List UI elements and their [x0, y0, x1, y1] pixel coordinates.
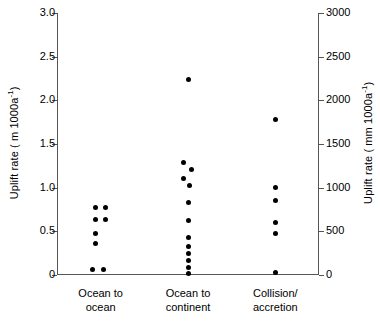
x-axis-category-label: Collision/accretion — [225, 286, 325, 314]
uplift-rate-scatter-figure: Uplift rate ( m 1000a-1) Uplift rate ( m… — [0, 0, 380, 327]
data-point — [101, 267, 106, 272]
x-axis-category-label: Ocean toocean — [51, 286, 151, 314]
y-axis-tick-label-right: 1000 — [326, 181, 372, 193]
data-point — [273, 117, 278, 122]
y-axis-tick-label-left: 3.0 — [11, 6, 55, 18]
category-label-line2: ocean — [51, 300, 151, 314]
y-axis-tick-right — [319, 100, 324, 101]
y-axis-tick-label-right: 1500 — [326, 137, 372, 149]
y-axis-tick-label-left: 2.0 — [11, 93, 55, 105]
data-point — [186, 251, 191, 256]
data-point — [273, 220, 278, 225]
y-axis-tick-label-left: 1.5 — [11, 137, 55, 149]
category-label-line1: Collision/ — [225, 286, 325, 300]
data-point — [186, 265, 191, 270]
y-axis-tick-label-right: 2000 — [326, 93, 372, 105]
data-point — [93, 217, 98, 222]
data-point — [186, 244, 191, 249]
data-point — [273, 185, 278, 190]
data-point — [90, 267, 95, 272]
data-point — [181, 160, 186, 165]
y-axis-tick-label-left: 1.0 — [11, 181, 55, 193]
data-point — [186, 218, 191, 223]
data-point — [273, 270, 278, 275]
y-axis-tick-right — [319, 188, 324, 189]
y-axis-tick-label-right: 3000 — [326, 6, 372, 18]
y-axis-title-right-exponent: -1 — [360, 86, 369, 93]
data-point — [93, 231, 98, 236]
data-point — [189, 167, 194, 172]
y-axis-tick-right — [319, 231, 324, 232]
plot-area: 00.51.01.52.02.53.0 05001000150020002500… — [57, 13, 319, 275]
y-axis-title-right-tail: ) — [362, 82, 374, 86]
category-label-line2: accretion — [225, 300, 325, 314]
y-axis-line-left — [57, 13, 58, 275]
y-axis-tick-label-left: 2.5 — [11, 50, 55, 62]
y-axis-tick-label-left: 0 — [11, 268, 55, 280]
data-point — [103, 205, 108, 210]
y-axis-tick-right — [319, 275, 324, 276]
data-point — [186, 271, 191, 276]
data-point — [273, 198, 278, 203]
data-point — [186, 77, 191, 82]
y-axis-tick-label-right: 500 — [326, 224, 372, 236]
y-axis-tick-label-right: 0 — [326, 268, 372, 280]
data-point — [181, 176, 186, 181]
data-point — [103, 217, 108, 222]
data-point — [93, 241, 98, 246]
y-axis-tick-label-left: 0.5 — [11, 224, 55, 236]
data-point — [186, 258, 191, 263]
data-point — [93, 205, 98, 210]
y-axis-tick-right — [319, 144, 324, 145]
category-label-line1: Ocean to — [51, 286, 151, 300]
data-point — [273, 231, 278, 236]
category-label-line2: continent — [138, 300, 238, 314]
data-point — [186, 235, 191, 240]
y-axis-title-left-tail: ) — [8, 86, 20, 90]
category-label-line1: Ocean to — [138, 286, 238, 300]
data-point — [186, 200, 191, 205]
y-axis-tick-right — [319, 57, 324, 58]
data-point — [187, 183, 192, 188]
x-axis-category-label: Ocean tocontinent — [138, 286, 238, 314]
y-axis-tick-right — [319, 13, 324, 14]
y-axis-tick-label-right: 2500 — [326, 50, 372, 62]
